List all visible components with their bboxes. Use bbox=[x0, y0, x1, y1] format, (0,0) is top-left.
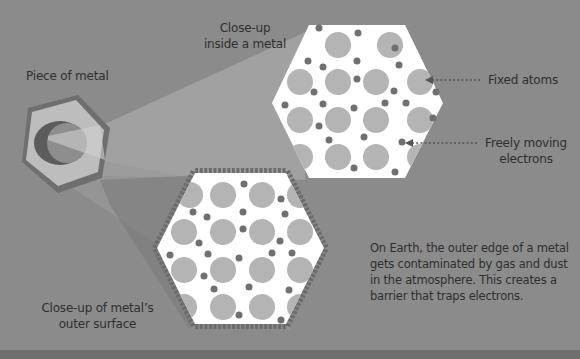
closeup-inside-line2: inside a metal bbox=[200, 36, 290, 52]
closeup-surface-line2: outer surface bbox=[30, 316, 165, 332]
caption-line-3: in the atmosphere. This creates a bbox=[370, 272, 580, 288]
closeup-inside-label: Close-up inside a metal bbox=[200, 20, 290, 52]
diagram-stage: Piece of metal Close-up inside a metal F… bbox=[0, 0, 580, 359]
bottom-band bbox=[0, 350, 580, 359]
closeup-inside-line1: Close-up bbox=[200, 20, 290, 36]
fixed-atoms-label: Fixed atoms bbox=[488, 72, 558, 88]
free-electrons-label: Freely moving electrons bbox=[478, 135, 574, 167]
caption-line-1: On Earth, the outer edge of a metal bbox=[370, 240, 580, 256]
free-electrons-line2: electrons bbox=[478, 151, 574, 167]
closeup-surface-label: Close-up of metal’s outer surface bbox=[30, 300, 165, 332]
piece-of-metal-label: Piece of metal bbox=[26, 68, 109, 84]
metal-nut-icon bbox=[22, 95, 110, 193]
free-electrons-line1: Freely moving bbox=[478, 135, 574, 151]
closeup-surface-line1: Close-up of metal’s bbox=[30, 300, 165, 316]
caption-text: On Earth, the outer edge of a metal gets… bbox=[370, 240, 580, 304]
caption-line-4: barrier that traps electrons. bbox=[370, 288, 580, 304]
caption-line-2: gets contaminated by gas and dust bbox=[370, 256, 580, 272]
